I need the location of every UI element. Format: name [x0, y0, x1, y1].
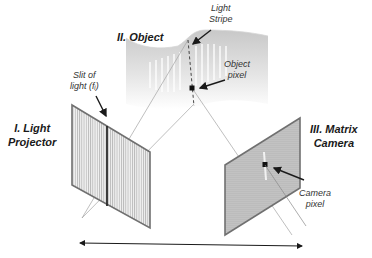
matrix-camera-panel [225, 118, 300, 235]
slit-annotation-line2: light (fᵢ) [70, 81, 99, 92]
light-stripe-annotation: Light Stripe [209, 3, 233, 26]
projector-label: I. Light Projector [8, 122, 56, 150]
projector-label-line1: I. Light [8, 122, 56, 136]
camera-label-line2: Camera [310, 137, 358, 151]
baseline-double-arrow [80, 243, 302, 246]
slit-annotation-line1: Slit of [70, 70, 99, 81]
object-label-text: II. Object [117, 31, 163, 43]
camera-pixel-annotation-line2: pixel [299, 199, 331, 210]
camera-label-line1: III. Matrix [310, 123, 358, 137]
camera-pixel-annotation-line1: Camera [299, 188, 331, 199]
object-pixel-annotation-line2: pixel [224, 70, 250, 81]
light-stripe-annotation-line1: Light [209, 3, 233, 14]
object-pixel-annotation-line1: Object [224, 59, 250, 70]
camera-pixel-marker [263, 162, 268, 167]
object-pixel-annotation: Object pixel [224, 59, 250, 82]
object-label: II. Object [117, 31, 163, 45]
projector-label-line2: Projector [8, 136, 56, 150]
camera-pixel-annotation: Camera pixel [299, 188, 331, 211]
object-pixel-marker [190, 86, 195, 91]
slit-annotation: Slit of light (fᵢ) [70, 70, 99, 93]
slit-arrow [96, 96, 106, 116]
camera-label: III. Matrix Camera [310, 123, 358, 151]
light-stripe-annotation-line2: Stripe [209, 14, 233, 25]
